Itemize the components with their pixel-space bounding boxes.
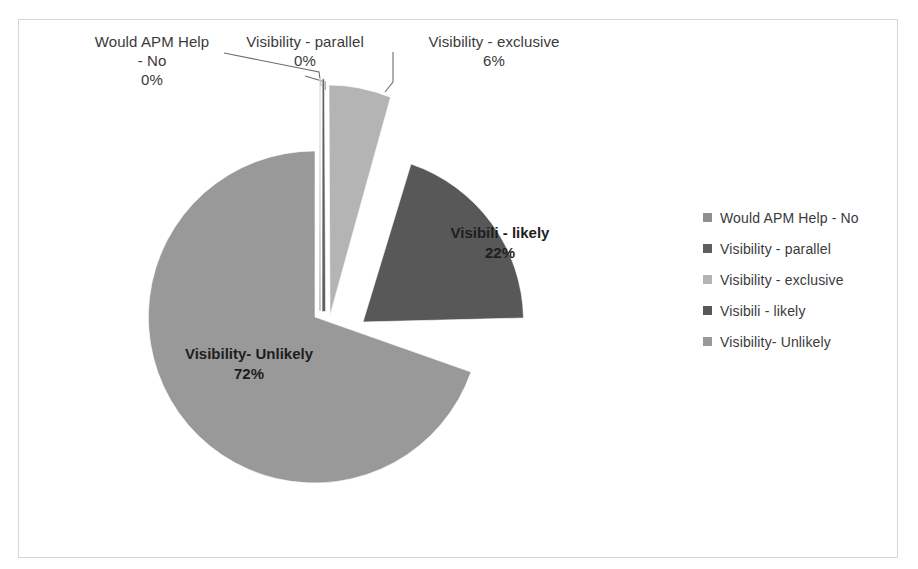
callout-line: Visibility - exclusive — [399, 32, 589, 51]
legend-swatch-icon — [703, 275, 712, 284]
slice-label-value: 22% — [415, 243, 585, 263]
slice-label-value: 72% — [141, 364, 357, 384]
legend-label: Would APM Help - No — [720, 210, 859, 226]
legend-swatch-icon — [703, 306, 712, 315]
chart-frame: Would APM Help - No 0% Visibility - para… — [18, 19, 898, 558]
pie-slice-would-apm-help-no[interactable] — [319, 78, 321, 311]
legend-item-visibility-parallel[interactable]: Visibility - parallel — [703, 233, 899, 264]
callout-line: Visibility - parallel — [215, 32, 395, 51]
callout-line: - No — [67, 51, 237, 70]
legend-item-visibility-unlikely[interactable]: Visibility- Unlikely — [703, 326, 899, 357]
slice-label-text: Visibility- Unlikely — [141, 344, 357, 364]
legend-label: Visibility - parallel — [720, 241, 831, 257]
pie-slice-visibility-parallel[interactable] — [322, 79, 326, 312]
legend-item-would-apm-help-no[interactable]: Would APM Help - No — [703, 202, 899, 233]
legend-swatch-icon — [703, 244, 712, 253]
legend-item-visibili-likely[interactable]: Visibili - likely — [703, 295, 899, 326]
callout-would-apm-help-no: Would APM Help - No 0% — [67, 32, 237, 90]
slice-label-visibili-likely: Visibili - likely 22% — [415, 223, 585, 262]
legend-label: Visibili - likely — [720, 303, 806, 319]
pie-slices — [148, 78, 523, 483]
callout-visibility-parallel: Visibility - parallel 0% — [215, 32, 395, 70]
callout-visibility-exclusive: Visibility - exclusive 6% — [399, 32, 589, 70]
callout-line: Would APM Help — [67, 32, 237, 51]
legend-swatch-icon — [703, 337, 712, 346]
legend-swatch-icon — [703, 213, 712, 222]
pie-chart-plot-area: Would APM Help - No 0% Visibility - para… — [19, 20, 899, 559]
legend-label: Visibility - exclusive — [720, 272, 844, 288]
slice-label-visibility-unlikely: Visibility- Unlikely 72% — [141, 344, 357, 383]
slice-label-text: Visibili - likely — [415, 223, 585, 243]
callout-value: 0% — [215, 51, 395, 70]
callout-value: 0% — [67, 70, 237, 89]
legend-label: Visibility- Unlikely — [720, 334, 831, 350]
chart-legend: Would APM Help - No Visibility - paralle… — [703, 202, 899, 357]
legend-item-visibility-exclusive[interactable]: Visibility - exclusive — [703, 264, 899, 295]
callout-value: 6% — [399, 51, 589, 70]
